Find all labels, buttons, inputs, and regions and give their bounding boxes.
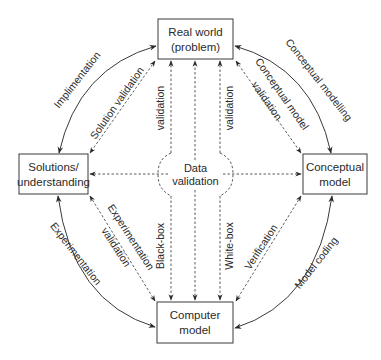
node-computer-model: Computer model [157, 302, 233, 343]
model-coding-label: Model coding [292, 234, 340, 291]
data-validation-label-2: validation [172, 175, 218, 187]
real-world-label-2: (problem) [171, 41, 220, 53]
data-validation-bubble-left [158, 153, 171, 196]
computer-label-1: Computer [170, 309, 221, 321]
implementation-label: Implimentation [51, 49, 103, 110]
solutions-label-2: understanding [17, 176, 90, 188]
computer-label-2: model [179, 324, 210, 336]
experimentation-label: Experimentation [48, 220, 104, 287]
black-box-label: Black-box [154, 222, 166, 269]
verification-label: Verification [242, 222, 280, 272]
implementation-arrow [59, 46, 156, 153]
solutions-label-1: Solutions/ [28, 161, 79, 173]
validation-left-label: validation [154, 86, 166, 131]
simulation-modelling-diagram: Real world (problem) Solutions/ understa… [0, 0, 381, 360]
node-solutions-understanding: Solutions/ understanding [17, 154, 90, 194]
validation-right-label: validation [223, 86, 235, 131]
node-real-world: Real world (problem) [158, 19, 233, 59]
solution-validation-label: Solution validation [87, 64, 146, 141]
conceptual-label-2: model [319, 176, 350, 188]
node-conceptual-model: Conceptual model [303, 154, 367, 194]
white-box-label: White-box [223, 222, 235, 270]
verification-arrow [236, 196, 301, 301]
data-validation-label-1: Data [184, 162, 208, 174]
conceptual-label-1: Conceptual [306, 161, 364, 173]
data-validation-bubble-right [220, 153, 233, 196]
real-world-label-1: Real world [168, 26, 222, 38]
solution-validation-arrow [90, 61, 155, 153]
